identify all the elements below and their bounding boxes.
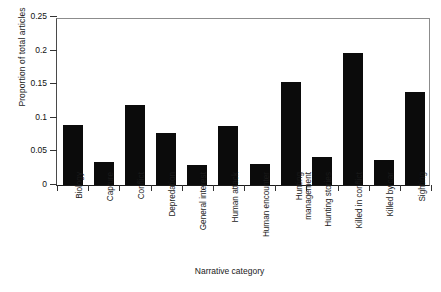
x-axis-title: Narrative category — [0, 266, 441, 276]
y-axis-tick: 0.1 — [50, 117, 57, 118]
x-axis-category-label: Human attack — [231, 172, 240, 262]
y-axis-tick-label: 0.1 — [35, 112, 47, 122]
x-axis-category-label-line: Depredation — [168, 172, 177, 217]
x-axis-category-label: Depredation — [168, 172, 177, 262]
y-axis-tick-label: 0.15 — [30, 78, 47, 88]
y-axis-tick: 0.05 — [50, 150, 57, 151]
y-axis-tick-label: 0 — [42, 179, 47, 189]
x-axis-title-text: Narrative category — [195, 266, 264, 276]
y-axis-tick: 0.2 — [50, 50, 57, 51]
x-axis-category-label: Killed by car — [386, 172, 395, 262]
bar — [281, 82, 301, 185]
x-axis-category-label: Huntingmanagement — [295, 172, 314, 262]
x-axis-category-label: Capture — [106, 172, 115, 262]
y-axis-tick: 0 — [50, 184, 57, 185]
y-axis-tick: 0.25 — [50, 16, 57, 17]
x-axis-category-label: General interest — [199, 172, 208, 262]
x-axis-category-label-line: Human attack — [231, 172, 240, 223]
x-axis-category-label: Human encounter — [262, 172, 271, 262]
y-axis-title: Proportion of total articles — [17, 0, 27, 137]
x-axis-category-label-line: Biology — [75, 172, 84, 199]
x-axis-category-label-line: Killed by car — [386, 172, 395, 217]
x-axis-category-label: Sighting — [418, 172, 427, 262]
x-axis-category-label-line: Conflict — [137, 172, 146, 199]
bar — [343, 53, 363, 185]
plot-area: 00.050.10.150.20.25 — [56, 18, 430, 186]
x-axis-category-label: Conflict — [137, 172, 146, 262]
x-axis-tick — [431, 185, 432, 191]
x-axis-category-label-line: Sighting — [418, 172, 427, 202]
x-axis-category-labels: BiologyCaptureConflictDepredationGeneral… — [56, 190, 430, 264]
x-axis-category-label-line: Hunting — [295, 172, 304, 200]
y-axis-tick: 0.15 — [50, 83, 57, 84]
x-axis-category-label-line: Hunting stories — [324, 172, 333, 227]
x-axis-category-label: Hunting stories — [324, 172, 333, 262]
y-axis-tick-label: 0.2 — [35, 45, 47, 55]
x-axis-category-label: Biology — [75, 172, 84, 262]
x-axis-category-label: Killed in conflict — [355, 172, 364, 262]
x-axis-category-label-line: Capture — [106, 172, 115, 201]
y-axis-tick-label: 0.25 — [30, 11, 47, 21]
y-axis-tick-label: 0.05 — [30, 145, 47, 155]
bar-chart-figure: Proportion of total articles 00.050.10.1… — [0, 0, 441, 292]
x-axis-category-label-line: Human encounter — [262, 172, 271, 237]
x-axis-category-label-line: management — [304, 172, 313, 262]
x-axis-category-label-line: Killed in conflict — [355, 172, 364, 228]
x-axis-category-label-line: General interest — [199, 172, 208, 230]
